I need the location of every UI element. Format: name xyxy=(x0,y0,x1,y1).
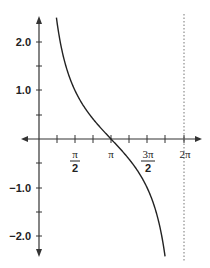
y-label-2: 2.0 xyxy=(16,36,31,48)
svg-text:2: 2 xyxy=(145,162,151,174)
y-label-1: 1.0 xyxy=(16,84,31,96)
x-label-3pi-half: 3π 2 xyxy=(141,148,155,174)
cotangent-chart: 2.0 1.0 −1.0 −2.0 π 2 π 3π 2 2π xyxy=(0,0,210,268)
x-label-pi: π xyxy=(108,148,114,160)
x-label-2pi: 2π xyxy=(179,148,191,160)
y-axis-up-arrow-icon xyxy=(36,16,42,24)
svg-text:π: π xyxy=(72,148,78,160)
x-axis-left-arrow-icon xyxy=(21,136,28,142)
x-label-pi-half: π 2 xyxy=(70,148,80,174)
y-label-minus-2: −2.0 xyxy=(9,230,31,242)
svg-text:3π: 3π xyxy=(142,148,154,160)
y-label-minus-1: −1.0 xyxy=(9,182,31,194)
x-axis-right-arrow-icon xyxy=(195,136,202,142)
svg-text:2: 2 xyxy=(72,162,78,174)
y-axis-down-arrow-icon xyxy=(36,249,42,257)
